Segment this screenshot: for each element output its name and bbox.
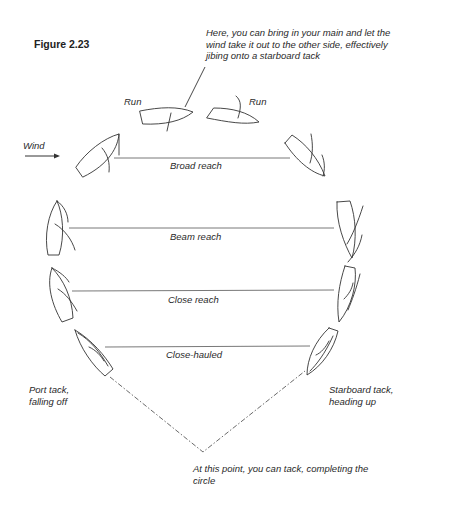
tack-note: At this point, you can tack, completing … (193, 463, 368, 486)
wind-arrow-icon (25, 154, 60, 159)
starboard-tack-note-line: heading up (329, 396, 393, 408)
label-close-reach: Close reach (168, 294, 219, 306)
port-tack-note-line: Port tack, (29, 384, 69, 396)
jibe-note-line: wind take it out to the other side, effe… (206, 39, 390, 51)
starboard-tack-note: Starboard tack, heading up (329, 384, 393, 407)
starboard-tack-note-line: Starboard tack, (329, 384, 393, 396)
jibe-note-line: Here, you can bring in your main and let… (206, 27, 390, 39)
boat-run-port (140, 108, 193, 131)
label-run-starboard: Run (249, 96, 266, 108)
boat-close-reach-starboard (338, 266, 360, 322)
close-hauled-line (105, 346, 310, 347)
tack-path-dashed-line (110, 371, 305, 452)
points-of-sail-diagram (0, 0, 452, 508)
port-tack-note-line: falling off (29, 396, 69, 408)
label-beam-reach: Beam reach (170, 231, 221, 243)
label-close-hauled: Close-hauled (166, 349, 222, 361)
port-tack-note: Port tack, falling off (29, 384, 69, 407)
label-broad-reach: Broad reach (170, 160, 222, 172)
boat-close-hauled-starboard (307, 328, 338, 375)
boat-broad-reach-port (76, 134, 119, 177)
boat-broad-reach-starboard (285, 134, 325, 176)
jibe-note: Here, you can bring in your main and let… (206, 27, 390, 62)
figure-title: Figure 2.23 (34, 38, 89, 50)
boat-close-reach-port (50, 268, 77, 322)
tack-note-line: At this point, you can tack, completing … (193, 463, 368, 475)
jibe-leader-line (185, 67, 205, 107)
jibe-note-line: jibing onto a starboard tack (206, 50, 390, 62)
wind-label: Wind (23, 140, 45, 152)
boat-close-hauled-port (75, 330, 113, 376)
label-run-port: Run (124, 96, 141, 108)
tack-note-line: circle (193, 475, 368, 487)
close-reach-line (72, 290, 334, 291)
boat-beam-reach-starboard (337, 201, 363, 262)
